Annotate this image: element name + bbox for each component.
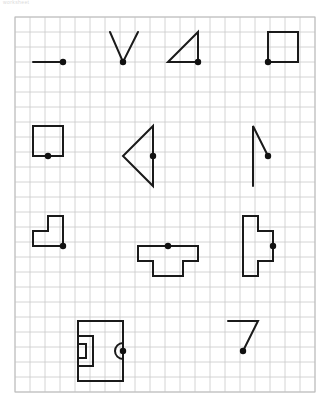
worksheet-page: worksheet xyxy=(0,0,325,410)
shape-t-shape-polygon[interactable] xyxy=(138,243,198,276)
l-shape-polygon-path xyxy=(33,216,63,246)
vertical-line-with-diagonal-anchor-dot[interactable] xyxy=(265,153,271,159)
v-shape-anchor-dot[interactable] xyxy=(120,59,126,65)
seven-shape-anchor-dot[interactable] xyxy=(240,348,246,354)
shape-right-triangle[interactable] xyxy=(168,32,201,65)
t-shape-polygon-anchor-dot[interactable] xyxy=(165,243,171,249)
stepped-cross-polygon-anchor-dot[interactable] xyxy=(270,243,276,249)
l-shape-polygon-anchor-dot[interactable] xyxy=(60,243,66,249)
horizontal-segment-anchor-dot[interactable] xyxy=(60,59,66,65)
shape-v-shape[interactable] xyxy=(110,32,138,65)
square-bottom-center-dot-anchor-dot[interactable] xyxy=(45,153,51,159)
shape-left-pointing-triangle[interactable] xyxy=(123,126,156,186)
stepped-cross-polygon-path xyxy=(243,216,273,276)
left-pointing-triangle-path xyxy=(123,126,153,186)
shapes-canvas xyxy=(0,0,325,410)
right-triangle-anchor-dot[interactable] xyxy=(195,59,201,65)
seven-shape-path xyxy=(228,321,258,351)
shape-horizontal-segment[interactable] xyxy=(33,59,66,65)
square-anchor-dot[interactable] xyxy=(265,59,271,65)
shape-seven-shape[interactable] xyxy=(228,321,258,354)
field-rectangle-with-arc-anchor-dot[interactable] xyxy=(120,348,126,354)
shape-square-bottom-center-dot[interactable] xyxy=(33,126,63,159)
shape-stepped-cross-polygon[interactable] xyxy=(243,216,276,276)
grid-lines xyxy=(15,17,315,392)
square-bottom-center-dot-path xyxy=(33,126,63,156)
field-rectangle-with-arc-outer xyxy=(78,321,123,381)
t-shape-polygon-path xyxy=(138,246,198,276)
left-pointing-triangle-anchor-dot[interactable] xyxy=(150,153,156,159)
shape-vertical-line-with-diagonal[interactable] xyxy=(253,126,271,186)
shape-field-rectangle-with-arc[interactable] xyxy=(78,321,126,381)
field-rectangle-with-arc-inner-small-box xyxy=(78,344,86,358)
shape-l-shape-polygon[interactable] xyxy=(33,216,66,249)
